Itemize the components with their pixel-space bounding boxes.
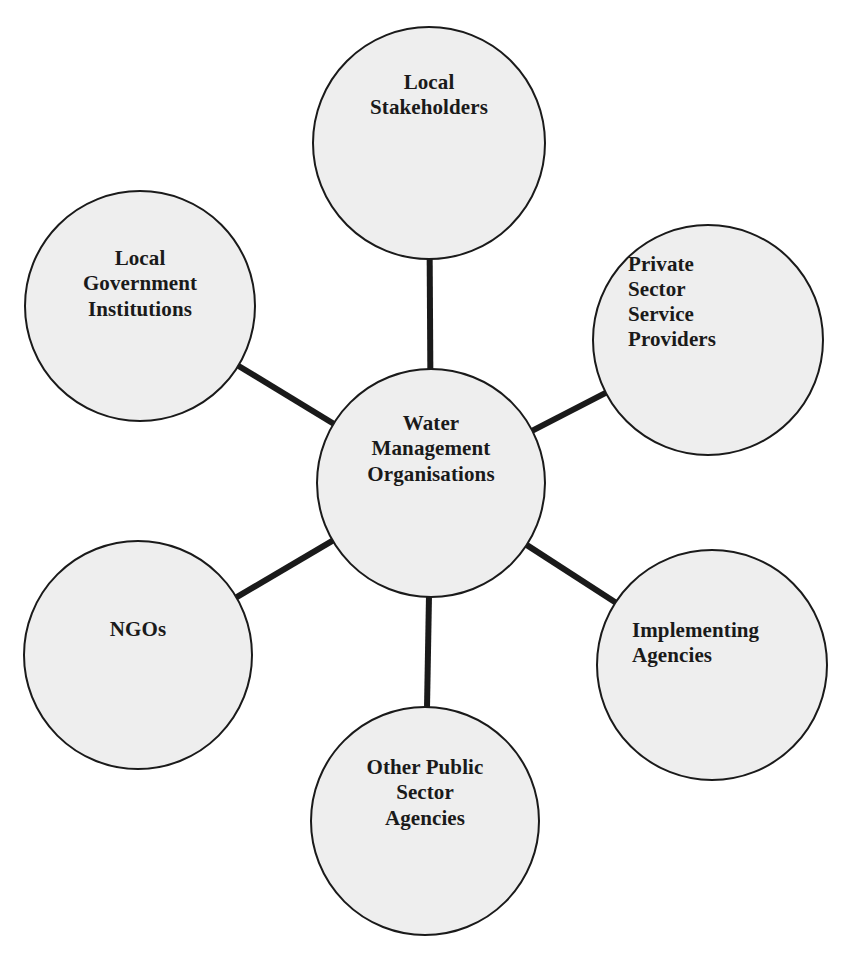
nodes-layer xyxy=(24,27,827,935)
node-circle-local-government-institutions xyxy=(25,191,255,421)
node-circle-implementing-agencies xyxy=(597,550,827,780)
connector-center-private-sector-service-providers xyxy=(531,392,608,432)
node-circle-local-stakeholders xyxy=(313,27,545,259)
connector-center-local-government-institutions xyxy=(237,365,336,425)
connector-center-local-stakeholders xyxy=(430,257,431,371)
diagram-canvas: WaterManagementOrganisationsLocalStakeho… xyxy=(0,0,850,958)
connector-center-other-public-sector-agencies xyxy=(427,595,429,709)
node-circle-water-management-organisations xyxy=(317,369,545,597)
node-circle-ngos xyxy=(24,541,252,769)
connector-center-implementing-agencies xyxy=(525,544,617,604)
diagram-svg xyxy=(0,0,850,958)
node-circle-other-public-sector-agencies xyxy=(311,707,539,935)
node-circle-private-sector-service-providers xyxy=(593,225,823,455)
connector-center-ngos xyxy=(235,540,335,599)
